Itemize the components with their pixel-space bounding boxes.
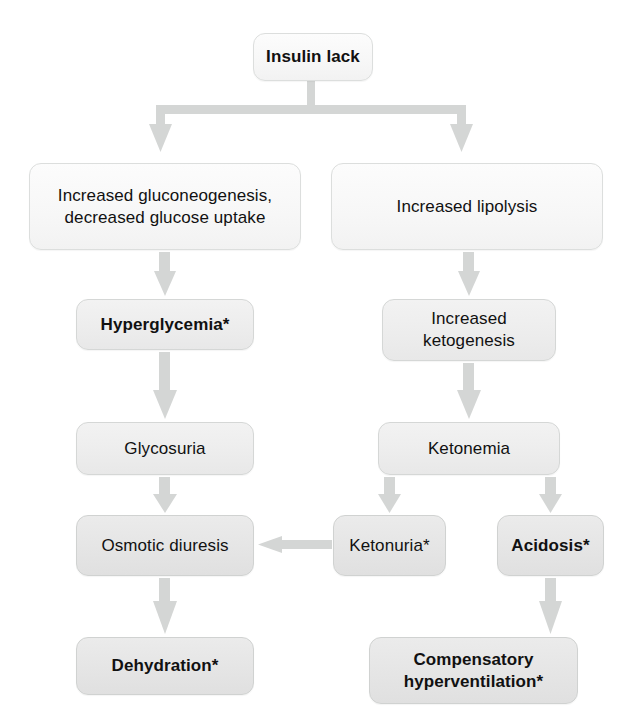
- edge-lipolysis-to-ketogenesis-arrow: [458, 252, 480, 296]
- flowchart-diagram: Insulin lack Increased gluconeogenesis, …: [0, 0, 622, 712]
- node-label: Insulin lack: [266, 46, 360, 68]
- node-ketonemia: Ketonemia: [378, 422, 560, 475]
- edge-acidosis-to-hyperventilation-arrow: [539, 578, 562, 634]
- node-increased-gluconeogenesis: Increased gluconeogenesis, decreased glu…: [29, 163, 301, 250]
- node-label: Glycosuria: [124, 438, 205, 460]
- node-label: Ketonuria*: [349, 535, 429, 557]
- node-label: Increased lipolysis: [397, 196, 538, 218]
- node-label: Increased ketogenesis: [423, 308, 515, 352]
- node-increased-lipolysis: Increased lipolysis: [331, 163, 603, 250]
- edge-glycosuria-to-osmotic-arrow: [153, 477, 177, 513]
- edge-ketogenesis-to-ketonemia-arrow: [457, 363, 481, 419]
- node-acidosis: Acidosis*: [497, 515, 604, 576]
- node-label: Ketonemia: [428, 438, 510, 460]
- edge-ketonemia-to-ketonuria-arrow: [378, 477, 401, 513]
- node-label: Increased gluconeogenesis, decreased glu…: [58, 185, 272, 229]
- edge-gluconeo-to-hyperglycemia-arrow: [154, 252, 176, 296]
- node-glycosuria: Glycosuria: [76, 422, 254, 475]
- edge-insulin-split-arrow: [149, 81, 473, 152]
- node-dehydration: Dehydration*: [76, 637, 254, 695]
- node-label: Acidosis*: [511, 535, 589, 557]
- node-ketonuria: Ketonuria*: [333, 515, 446, 576]
- node-hyperglycemia: Hyperglycemia*: [76, 299, 254, 350]
- node-label: Hyperglycemia*: [101, 314, 230, 336]
- node-label: Osmotic diuresis: [101, 535, 228, 557]
- node-increased-ketogenesis: Increased ketogenesis: [382, 299, 556, 361]
- node-label: Dehydration*: [112, 655, 219, 677]
- edge-ketonuria-to-osmotic-arrow: [258, 536, 332, 553]
- node-insulin-lack: Insulin lack: [253, 33, 373, 81]
- edge-osmotic-to-dehydration-arrow: [153, 578, 177, 634]
- node-osmotic-diuresis: Osmotic diuresis: [76, 515, 254, 576]
- node-compensatory-hyperventilation: Compensatory hyperventilation*: [369, 637, 578, 704]
- node-label: Compensatory hyperventilation*: [404, 649, 544, 693]
- edge-ketonemia-to-acidosis-arrow: [539, 477, 562, 513]
- edge-hyperglycemia-to-glycosuria-arrow: [153, 352, 177, 419]
